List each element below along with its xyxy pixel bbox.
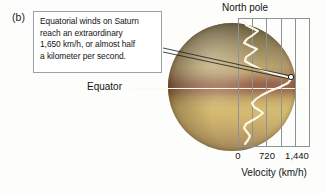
tick-label-1440: 1,440	[285, 150, 309, 161]
gridline-0	[238, 18, 239, 147]
gridline-720	[266, 18, 267, 147]
tick-label-0: 0	[235, 150, 240, 161]
panel-label: (b)	[12, 11, 25, 23]
saturn-wind-velocity-figure: (b) Equator North pole Equatorial winds …	[0, 0, 326, 194]
equator-label: Equator	[87, 81, 122, 92]
gridline-1800	[309, 18, 310, 147]
plot-border	[238, 18, 310, 147]
gridline-1080	[281, 18, 282, 147]
axis-title: Velocity (km/h)	[241, 167, 307, 178]
gridline-360	[252, 18, 253, 147]
north-pole-label: North pole	[222, 2, 268, 13]
tick-label-720: 720	[259, 150, 275, 161]
velocity-plot-frame	[238, 18, 310, 147]
callout-box: Equatorial winds on Saturn reach an extr…	[33, 11, 162, 73]
callout-text: Equatorial winds on Saturn reach an extr…	[40, 16, 156, 62]
gridline-1440	[295, 18, 296, 147]
